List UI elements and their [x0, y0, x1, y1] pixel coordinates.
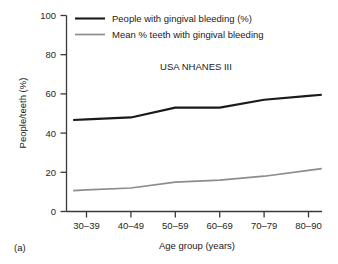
- y-tick-label-40: 40: [45, 128, 56, 139]
- legend-label-people: People with gingival bleeding (%): [112, 13, 252, 24]
- panel-label: (a): [14, 242, 26, 253]
- y-tick-label-60: 60: [45, 88, 56, 99]
- y-axis-ticks: [61, 16, 67, 212]
- legend-label-teeth: Mean % teeth with gingival bleeding: [112, 29, 264, 40]
- x-tick-label-4: 70–79: [251, 220, 277, 231]
- line-chart: 100 80 60 40 20 0 People/teeth (%) 30–39…: [0, 0, 338, 264]
- x-tick-label-0: 30–39: [73, 220, 99, 231]
- chart-annotation: USA NHANES III: [160, 61, 232, 72]
- y-tick-label-20: 20: [45, 167, 56, 178]
- x-axis-ticks: [87, 212, 309, 218]
- x-tick-label-5: 80–90: [295, 220, 321, 231]
- legend: People with gingival bleeding (%) Mean %…: [75, 13, 264, 40]
- y-tick-label-0: 0: [51, 206, 56, 217]
- series-line-people-with-gingival-bleeding: [73, 95, 322, 120]
- y-tick-label-80: 80: [45, 49, 56, 60]
- x-tick-label-2: 50–59: [162, 220, 188, 231]
- y-tick-label-100: 100: [40, 10, 56, 21]
- x-tick-label-3: 60–69: [206, 220, 232, 231]
- y-axis-tick-labels: 100 80 60 40 20 0: [40, 10, 56, 217]
- y-axis-title: People/teeth (%): [17, 78, 28, 149]
- x-axis-title: Age group (years): [159, 240, 235, 251]
- figure-panel-a: 100 80 60 40 20 0 People/teeth (%) 30–39…: [0, 0, 338, 264]
- x-tick-label-1: 40–49: [118, 220, 144, 231]
- series-line-mean-percent-teeth: [73, 169, 322, 191]
- x-axis-tick-labels: 30–39 40–49 50–59 60–69 70–79 80–90: [73, 220, 321, 231]
